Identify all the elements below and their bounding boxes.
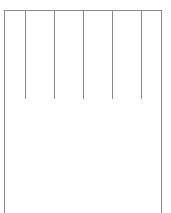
column-divider-2 <box>54 10 55 99</box>
column-divider-1 <box>25 10 26 99</box>
column-divider-3 <box>83 10 84 99</box>
column-divider-4 <box>112 10 113 99</box>
column-divider-5 <box>141 10 142 99</box>
